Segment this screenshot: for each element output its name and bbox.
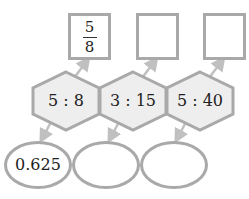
fraction-numerator: 5 [71, 20, 108, 35]
fraction: 5 8 [71, 20, 108, 55]
decimal-ellipse-1[interactable]: 0.625 [4, 141, 72, 189]
decimal-ellipse-2[interactable] [72, 141, 140, 189]
fraction-denominator: 8 [71, 40, 108, 55]
decimal-ellipse-3[interactable] [140, 141, 208, 189]
arrow-down-1 [43, 122, 51, 137]
fraction-box-3[interactable] [203, 13, 246, 60]
ratio-label-2: 3 : 15 [99, 91, 167, 111]
ratio-label-1: 5 : 8 [32, 91, 100, 111]
decimal-value-1: 0.625 [7, 144, 69, 186]
fraction-box-2[interactable] [136, 13, 179, 60]
fraction-box-1[interactable]: 5 8 [68, 13, 111, 60]
ratio-label-3: 5 : 40 [166, 91, 234, 111]
